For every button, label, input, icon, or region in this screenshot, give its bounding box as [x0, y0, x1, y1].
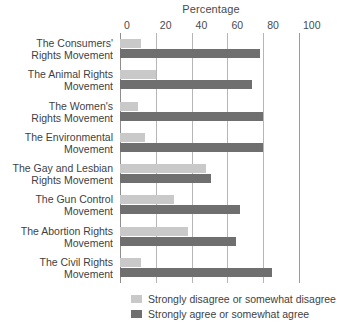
bar-agree: [120, 112, 263, 121]
chart-title: Percentage: [120, 3, 302, 15]
bar-agree: [120, 268, 272, 277]
bar-group: [120, 164, 299, 183]
category-label: The Civil Rights Movement: [0, 256, 113, 280]
bar-disagree: [120, 70, 156, 79]
bar-group: [120, 70, 299, 89]
bar-disagree: [120, 39, 141, 48]
legend-swatch-light: [131, 295, 142, 303]
bar-disagree: [120, 102, 138, 111]
x-tick-label-80: 80: [267, 19, 279, 31]
bar-disagree: [120, 227, 188, 236]
bar-agree: [120, 205, 240, 214]
x-tick-label-40: 40: [196, 19, 208, 31]
legend-swatch-dark: [131, 310, 142, 318]
category-label: The Environmental Movement: [0, 131, 113, 155]
x-tick-label-60: 60: [231, 19, 243, 31]
bar-disagree: [120, 164, 206, 173]
bar-group: [120, 39, 299, 58]
bar-group: [120, 102, 299, 121]
plot-area: [120, 33, 299, 283]
category-label: The Gun Control Movement: [0, 193, 113, 217]
category-label: The Abortion Rights Movement: [0, 225, 113, 249]
bar-group: [120, 227, 299, 246]
bar-agree: [120, 143, 263, 152]
bar-group: [120, 195, 299, 214]
x-tick-label-0: 0: [124, 19, 130, 31]
x-tick-label-100: 100: [303, 19, 321, 31]
category-label: The Gay and Lesbian Rights Movement: [0, 162, 113, 186]
bar-chart: Percentage 020406080100 The Consumers' R…: [0, 0, 337, 326]
x-axis-tick-labels: 020406080100: [0, 19, 337, 33]
legend-item: Strongly disagree or somewhat disagree: [131, 292, 337, 306]
bar-disagree: [120, 258, 141, 267]
bar-agree: [120, 237, 236, 246]
x-tick-label-20: 20: [160, 19, 172, 31]
gridline-100: [299, 33, 300, 283]
bar-group: [120, 133, 299, 152]
legend-item: Strongly agree or somewhat agree: [131, 307, 337, 321]
category-label: The Consumers' Rights Movement: [0, 37, 113, 61]
chart-legend: Strongly disagree or somewhat disagreeSt…: [131, 292, 337, 322]
bar-group: [120, 258, 299, 277]
bar-agree: [120, 80, 252, 89]
bar-agree: [120, 174, 211, 183]
bar-agree: [120, 49, 260, 58]
y-axis-category-labels: The Consumers' Rights MovementThe Animal…: [0, 33, 116, 283]
legend-label: Strongly agree or somewhat agree: [148, 308, 309, 320]
legend-label: Strongly disagree or somewhat disagree: [148, 293, 336, 305]
bar-disagree: [120, 195, 174, 204]
category-label: The Animal Rights Movement: [0, 68, 113, 92]
bar-disagree: [120, 133, 145, 142]
category-label: The Women's Rights Movement: [0, 100, 113, 124]
